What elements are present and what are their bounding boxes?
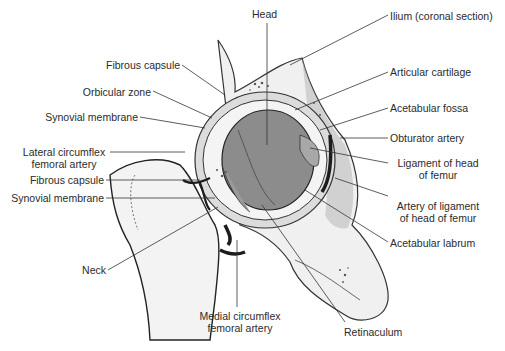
label-acetabular-labrum: Acetabular labrum xyxy=(390,237,475,249)
label-medial-circumflex: Medial circumflex femoral artery xyxy=(192,310,288,334)
label-lateral-circumflex: Lateral circumflex femoral artery xyxy=(20,146,108,170)
hip-joint-diagram: Head Ilium (coronal section) Fibrous cap… xyxy=(0,0,505,351)
label-ilium: Ilium (coronal section) xyxy=(390,10,493,22)
label-obturator-artery: Obturator artery xyxy=(390,132,464,144)
label-ligament-of-head: Ligament of head of femur xyxy=(388,157,488,181)
label-neck: Neck xyxy=(60,264,106,276)
label-orbicular-zone: Orbicular zone xyxy=(60,86,151,98)
label-articular-cartilage: Articular cartilage xyxy=(390,66,471,78)
label-fibrous-capsule-top: Fibrous capsule xyxy=(106,59,180,71)
medial-circumflex-artery xyxy=(220,225,245,254)
label-head: Head xyxy=(252,8,277,20)
label-synovial-membrane-bottom: Synovial membrane xyxy=(8,192,104,204)
label-fibrous-capsule-bottom: Fibrous capsule xyxy=(20,174,104,186)
label-acetabular-fossa: Acetabular fossa xyxy=(390,102,468,114)
label-artery-of-ligament: Artery of ligament of head of femur xyxy=(388,200,488,224)
label-retinaculum: Retinaculum xyxy=(344,326,402,338)
label-synovial-membrane-top: Synovial membrane xyxy=(20,111,138,123)
